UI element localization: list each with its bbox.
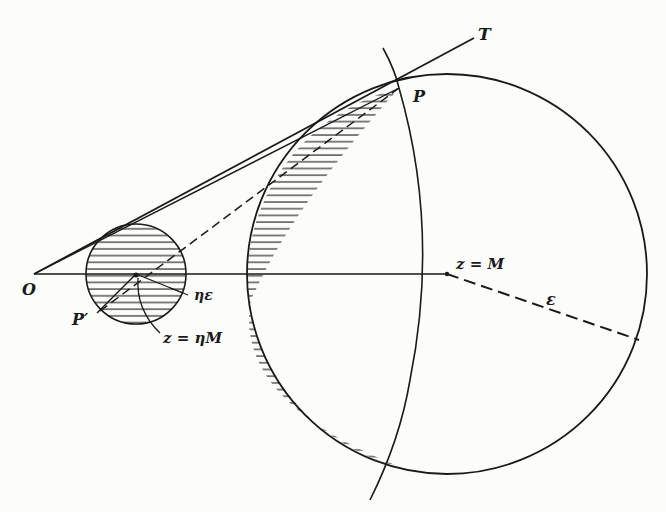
center-dot-small xyxy=(134,273,139,278)
center-dot-large xyxy=(445,272,449,276)
tangent-line-inner xyxy=(34,88,399,274)
label-z-eq-etaM: z = ηM xyxy=(162,329,222,347)
label-P-prime: P′ xyxy=(71,310,89,329)
lens-region xyxy=(247,88,400,470)
large-radius-dashed xyxy=(447,274,639,340)
label-eps: ε xyxy=(546,290,556,309)
label-P: P xyxy=(412,87,426,106)
label-T: T xyxy=(478,24,492,44)
label-O: O xyxy=(22,280,36,299)
label-eta-eps: ηε xyxy=(194,287,213,303)
diagram-canvas: T P O P′ z = M z = ηM ηε ε xyxy=(0,0,666,512)
label-z-eq-M: z = M xyxy=(455,255,505,273)
